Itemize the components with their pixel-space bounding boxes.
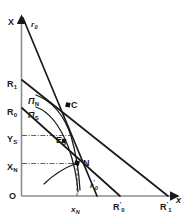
line-r0-budget bbox=[22, 108, 120, 196]
point-label-c: C bbox=[71, 95, 78, 111]
y-tick-r1: R1 bbox=[7, 74, 17, 90]
line-label-r0: r0 bbox=[31, 14, 37, 30]
budget-lines-group bbox=[22, 18, 168, 196]
axes-group bbox=[22, 16, 179, 196]
curve-label-pi-s: ΠS bbox=[28, 105, 38, 121]
x-tick-r1-prime: R'1 bbox=[160, 197, 171, 213]
line-label-r0-prime: r'0 bbox=[90, 175, 98, 191]
y-tick-xn: XN bbox=[7, 157, 17, 173]
y-tick-r0: R0 bbox=[7, 102, 17, 118]
curve-lower-arc bbox=[44, 163, 77, 184]
y-axis-label: X bbox=[8, 12, 14, 28]
y-tick-ys: YS bbox=[7, 129, 17, 145]
x-tick-xn: xN bbox=[71, 199, 79, 215]
point-marker-c bbox=[65, 102, 70, 107]
origin-label: O bbox=[9, 186, 16, 202]
x-tick-r0-prime: R'0 bbox=[113, 197, 124, 213]
point-label-es: ES bbox=[56, 130, 66, 146]
x-axis-label: x bbox=[176, 190, 181, 206]
point-label-n: N bbox=[83, 153, 90, 169]
economics-diagram: X x O R1 R0 YS XN xN R'0 R'1 r0 r'0 ΠN Π… bbox=[0, 0, 186, 223]
point-marker-n bbox=[74, 160, 80, 166]
